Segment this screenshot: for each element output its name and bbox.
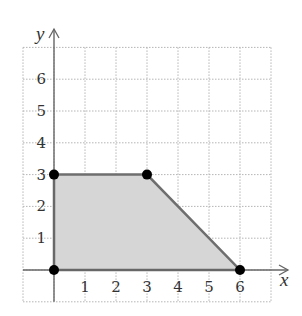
- x-tick-label: 6: [235, 278, 245, 296]
- vertex-point: [49, 170, 59, 180]
- vertex-point: [142, 170, 152, 180]
- y-tick-label: 2: [36, 197, 46, 215]
- y-tick-label: 5: [36, 102, 46, 120]
- x-tick-label: 3: [142, 278, 152, 296]
- vertex-point: [235, 265, 245, 275]
- y-tick-label: 1: [36, 229, 46, 247]
- x-tick-label: 4: [173, 278, 183, 296]
- y-tick-label: 4: [36, 134, 46, 152]
- vertex-point: [49, 265, 59, 275]
- x-tick-label: 2: [111, 278, 121, 296]
- x-tick-label: 5: [204, 278, 214, 296]
- x-tick-label: 1: [80, 278, 90, 296]
- x-axis-label: x: [279, 269, 289, 290]
- y-tick-label: 6: [36, 70, 46, 88]
- y-axis-label: y: [34, 23, 45, 44]
- feasible-region: [54, 175, 240, 270]
- chart: 123456123456 x y: [0, 0, 302, 316]
- y-tick-label: 3: [36, 166, 46, 184]
